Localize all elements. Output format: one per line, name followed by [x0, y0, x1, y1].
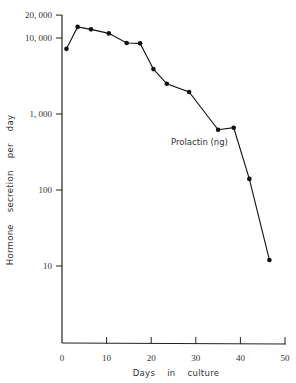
y-tick-label: 10, 000: [25, 33, 53, 43]
x-tick-label: 40: [236, 353, 246, 363]
data-point: [187, 90, 192, 95]
data-point: [138, 41, 143, 46]
x-axis: [62, 343, 286, 344]
x-tick-label: 0: [60, 353, 65, 363]
x-tick-label: 20: [147, 353, 157, 363]
y-tick-label: 1, 000: [30, 109, 53, 119]
x-axis-title: Days in culture: [133, 368, 220, 378]
y-axis-title: Hormone secretion per day: [5, 115, 15, 266]
x-tick-label: 10: [102, 353, 112, 363]
data-point: [64, 47, 69, 52]
data-point: [75, 25, 80, 30]
y-tick-label: 10: [43, 261, 53, 271]
data-point: [124, 41, 129, 46]
prolactin-chart: 101001, 00010, 00020, 000 01020304050 Da…: [0, 0, 296, 383]
data-point: [267, 258, 272, 263]
data-point: [107, 31, 112, 36]
y-ticks: 101001, 00010, 00020, 000: [25, 10, 62, 271]
data-point: [151, 67, 156, 72]
x-tick-label: 30: [191, 353, 201, 363]
y-tick-label: 20, 000: [25, 10, 53, 20]
data-point: [231, 125, 236, 130]
data-point: [216, 127, 221, 132]
x-ticks: 01020304050: [60, 337, 290, 363]
series-line: [66, 27, 269, 260]
series-prolactin: [64, 25, 272, 263]
series-label-prolactin: Prolactin (ng): [171, 137, 228, 147]
data-point: [247, 177, 252, 182]
data-point: [165, 81, 170, 86]
x-tick-label: 50: [281, 353, 291, 363]
data-point: [89, 27, 94, 32]
y-tick-label: 100: [39, 185, 53, 195]
axes: [62, 15, 286, 344]
